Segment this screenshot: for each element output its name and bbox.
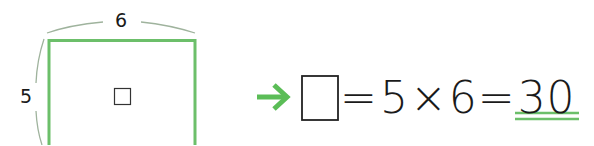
factor-height: 5 [380, 72, 409, 123]
equals-sign-2: = [478, 72, 516, 123]
factor-width: 6 [449, 72, 478, 123]
equals-sign: = [340, 72, 378, 123]
width-label: 6 [115, 9, 127, 31]
right-arrow-icon [257, 85, 287, 109]
equation-unknown-box [302, 76, 338, 120]
width-arc-right [141, 22, 195, 33]
rectangle-shape [49, 41, 195, 146]
center-unknown-box [115, 89, 131, 105]
width-arc-left [47, 22, 103, 33]
height-label: 5 [20, 85, 32, 107]
height-arc-bottom [36, 111, 42, 145]
equation: = 5 × 6 = 30 [340, 72, 576, 122]
times-sign: × [410, 72, 448, 123]
height-arc-top [36, 39, 44, 83]
answer-value: 30 [518, 72, 576, 123]
